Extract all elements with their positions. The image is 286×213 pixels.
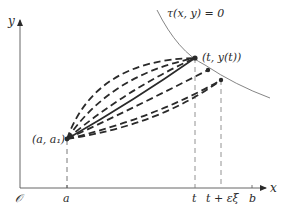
y-axis-label: y xyxy=(7,14,15,28)
dashed-curve-3 xyxy=(67,58,195,139)
tick-label-a: a xyxy=(63,192,70,205)
diagram-canvas: y x 𝒪 a t t + εξ b τ(x, y) = 0 (a, a₁) (… xyxy=(0,0,286,213)
dashed-curve-1 xyxy=(67,58,195,139)
point-end-label: (t, y(t)) xyxy=(202,51,241,64)
dashed-curve-4 xyxy=(67,70,208,139)
point-start-label: (a, a₁) xyxy=(32,133,65,146)
dashed-curve-5 xyxy=(67,80,221,139)
x-axis-label: x xyxy=(270,181,277,195)
dashed-curve-2 xyxy=(67,58,195,139)
point-t-eps xyxy=(219,78,223,82)
dashed-curve-6 xyxy=(67,80,221,139)
point-start xyxy=(65,137,70,142)
point-end xyxy=(192,55,197,60)
curve-label: τ(x, y) = 0 xyxy=(167,7,224,20)
origin-label: 𝒪 xyxy=(15,192,25,205)
point-mid xyxy=(206,68,210,72)
tick-label-t-eps: t + εξ xyxy=(206,192,240,205)
solution-curves xyxy=(67,58,221,139)
solid-curve xyxy=(67,58,195,139)
tick-label-t: t xyxy=(192,192,197,205)
tick-label-b: b xyxy=(249,192,256,205)
